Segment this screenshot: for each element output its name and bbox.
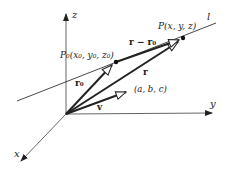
x-axis-label: x [14,148,20,159]
vector-v-label: v [96,102,103,112]
vector-r-label: r [143,67,148,77]
point-p0 [114,60,118,64]
point-p-label: P(x, y, z) [157,21,197,31]
vector-equation-of-line-diagram: z y x l r₀ r r − r₀ v (a, b, c) P₀(x₀, y… [0,0,231,170]
axes: z y x [14,9,216,161]
x-axis [21,114,66,161]
direction-vector-label: (a, b, c) [134,84,167,94]
y-axis-label: y [209,98,216,109]
vector-r-minus-r0-label: r − r₀ [129,37,156,47]
point-p [181,36,185,40]
line-l-label: l [207,11,210,22]
vector-r0-label: r₀ [75,78,84,88]
point-p0-label: P₀(x₀, y₀, z₀) [59,50,114,60]
z-axis-label: z [71,9,78,20]
y-axis [66,113,212,114]
